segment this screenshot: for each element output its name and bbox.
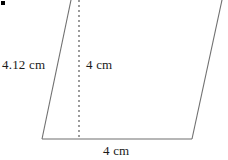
base-label: 4 cm	[103, 144, 129, 157]
slant-side-label: 4.12 cm	[2, 58, 45, 71]
height-label: 4 cm	[86, 58, 112, 71]
right-slant-edge	[192, 0, 222, 139]
diagram-canvas: 4.12 cm 4 cm 4 cm	[0, 0, 228, 160]
left-slant-edge	[42, 0, 71, 139]
parallelogram-figure	[0, 0, 228, 160]
